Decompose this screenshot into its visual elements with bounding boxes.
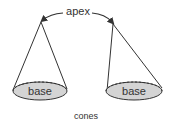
- right-cone: base: [13, 22, 67, 100]
- base-label: base: [122, 85, 146, 97]
- base-label: base: [28, 85, 52, 97]
- cones-diagram: apex base base cones: [0, 0, 172, 129]
- apex-label: apex: [66, 5, 90, 17]
- apex-arrow-left: [43, 13, 63, 20]
- apex-arrow-right: [92, 13, 112, 22]
- oblique-cone: base: [106, 24, 162, 100]
- caption: cones: [74, 111, 99, 121]
